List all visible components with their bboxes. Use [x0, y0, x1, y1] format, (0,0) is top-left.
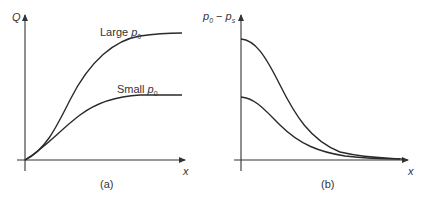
curve-large-p0 [25, 33, 182, 160]
curve-large-p0-decay [241, 39, 404, 159]
label-small-p0: Small p0 [117, 83, 158, 97]
caption-b: (b) [321, 178, 334, 190]
curve-small-p0 [25, 95, 182, 160]
label-large-p0: Large p0 [100, 26, 141, 40]
figure: Q x Large p0 Small p0 (a) p0 − ps x (b) [0, 0, 428, 197]
curve-small-p0-decay [241, 97, 400, 159]
y-axis-label-b: p0 − ps [202, 10, 236, 24]
y-axis-label-a: Q [12, 11, 21, 23]
panel-b: p0 − ps x (b) [202, 10, 414, 190]
caption-a: (a) [100, 178, 113, 190]
x-axis-label-a: x [182, 165, 189, 177]
x-axis-label-b: x [407, 165, 414, 177]
panel-a: Q x Large p0 Small p0 (a) [12, 11, 189, 190]
